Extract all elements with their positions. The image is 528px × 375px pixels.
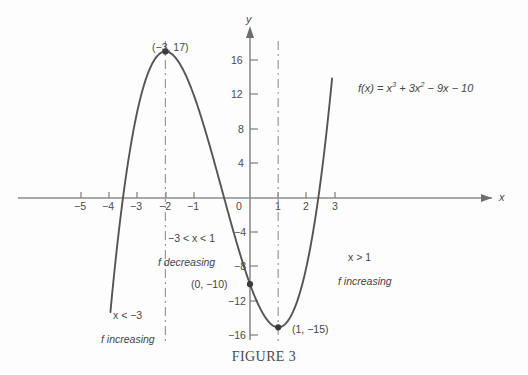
y-tick-label--12: −12: [228, 296, 246, 307]
x-tick-label--4: −4: [102, 201, 114, 212]
x-tick-label-3: 3: [332, 201, 338, 212]
x-axis-ticks: [81, 192, 335, 198]
graph-plot: [0, 0, 528, 375]
function-tail: − 9x − 10: [424, 82, 473, 94]
function-equation-label: f(x) = x3 + 3x2 − 9x − 10: [358, 81, 473, 94]
x-tick-label--2: −2: [159, 201, 171, 212]
x-tick-label-1: 1: [275, 201, 281, 212]
local-max-point-label: (−3, 17): [152, 42, 188, 53]
x-axis-arrowhead: [481, 194, 492, 202]
y-axis-arrowhead: [246, 26, 254, 38]
local-min-point-label: (1, −15): [292, 324, 328, 335]
annotation-right-condition: x > 1: [348, 252, 371, 263]
y-tick-label--8: −8: [234, 261, 246, 272]
x-tick-label-2: 2: [303, 201, 309, 212]
x-tick-label--1: −1: [187, 201, 199, 212]
y-tick-label--4: −4: [234, 227, 246, 238]
annotation-left-condition: x < −3: [113, 310, 142, 321]
x-tick-label--3: −3: [130, 201, 142, 212]
x-tick-label-0: 0: [236, 201, 242, 212]
annotation-middle-condition: −3 < x < 1: [168, 233, 215, 244]
function-lead: f(x) = x: [358, 82, 392, 94]
y-tick-label-16: 16: [231, 55, 243, 66]
annotation-left-behavior: f increasing: [101, 334, 155, 345]
y-tick-label--16: −16: [228, 330, 246, 341]
annotation-right-behavior: f increasing: [338, 276, 392, 287]
function-mid: + 3x: [396, 82, 420, 94]
figure-container: y x −5 −4 −3 −2 −1 0 1 2 3 16 12 8 4 −4 …: [0, 0, 528, 375]
x-axis-label: x: [499, 192, 505, 203]
y-intercept-point-label: (0, −10): [191, 279, 227, 290]
y-axis-label: y: [246, 14, 252, 25]
point-marker-y-intercept: [247, 281, 253, 287]
figure-caption: FIGURE 3: [0, 349, 528, 365]
x-tick-label--5: −5: [74, 201, 86, 212]
y-tick-label-12: 12: [231, 89, 243, 100]
y-tick-label-4: 4: [238, 158, 244, 169]
annotation-middle-behavior: f decreasing: [158, 257, 215, 268]
point-marker-local-min: [275, 324, 281, 330]
y-tick-label-8: 8: [238, 124, 244, 135]
